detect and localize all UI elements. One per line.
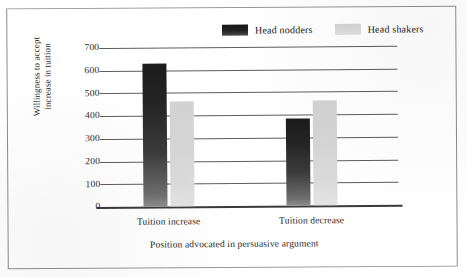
bars-group [0,0,467,277]
bar-tuition-decrease-head-nodders [286,119,311,206]
category-label-tuition-decrease: Tuition decrease [257,215,367,227]
y-axis-title-line2: increase in tuition [42,43,54,109]
figure-container: 700 600 500 400 300 200 100 0 Tuition in… [0,0,467,277]
chart-legend: Head nodders Head shakers [222,23,424,35]
bar-tuition-increase-head-shakers [170,101,195,206]
category-label-tuition-increase: Tuition increase [114,216,224,228]
legend-item-head-nodders: Head nodders [222,24,313,36]
bar-tuition-increase-head-nodders [142,64,167,207]
legend-swatch-icon-head-shakers [335,24,361,35]
legend-label-head-nodders: Head nodders [255,24,313,35]
bar-tuition-decrease-head-shakers [313,100,338,205]
y-axis-title-line1: Willingness to accept [31,37,43,116]
legend-item-head-shakers: Head shakers [335,23,424,35]
plot-area: 700 600 500 400 300 200 100 0 Tuition in… [0,0,467,277]
legend-swatch-icon-head-nodders [222,25,248,36]
y-axis-title: Willingness to accept increase in tuitio… [29,11,56,141]
legend-label-head-shakers: Head shakers [368,23,424,34]
